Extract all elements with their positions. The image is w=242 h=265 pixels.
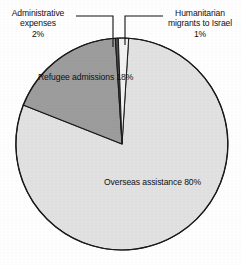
label-value: 2% bbox=[2, 29, 74, 39]
label-line-2: expenses bbox=[2, 18, 74, 28]
slice-label-refugee-admissions: Refugee admissions 18% bbox=[38, 72, 116, 83]
pie-chart-graphic bbox=[0, 0, 242, 265]
label-value: 18% bbox=[116, 72, 133, 82]
label-line-1: Overseas bbox=[104, 177, 140, 187]
pie-chart-figure: Administrative expenses 2% Humanitarian … bbox=[0, 0, 242, 265]
label-line-2: admissions bbox=[72, 72, 114, 82]
label-line-2: assistance bbox=[142, 177, 182, 187]
slice-label-overseas-assistance: Overseas assistance 80% bbox=[104, 177, 184, 188]
slice-label-administrative-expenses: Administrative expenses 2% bbox=[2, 8, 74, 39]
slice-label-humanitarian-migrants: Humanitarian migrants to Israel 1% bbox=[160, 8, 240, 39]
label-line-2: migrants to Israel bbox=[160, 18, 240, 28]
label-line-1: Refugee bbox=[38, 72, 70, 82]
label-value: 80% bbox=[184, 177, 201, 187]
label-line-1: Humanitarian bbox=[160, 8, 240, 18]
label-line-1: Administrative bbox=[2, 8, 74, 18]
label-value: 1% bbox=[160, 29, 240, 39]
